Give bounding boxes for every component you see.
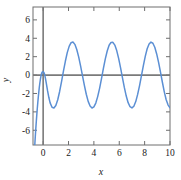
y-tick-label: -2 <box>22 89 30 99</box>
chart-plot: 0246810 -6-4-20246 x y <box>0 0 181 180</box>
y-tick-label: 4 <box>25 34 30 44</box>
y-tick-label: -6 <box>22 126 30 136</box>
y-tick-label: 0 <box>25 70 30 80</box>
y-axis-title: y <box>0 77 11 83</box>
y-tick-label: 2 <box>25 52 30 62</box>
x-tick-label: 6 <box>117 148 122 158</box>
y-tick-label: 6 <box>25 15 30 25</box>
x-tick-label: 4 <box>92 148 97 158</box>
chart-figure: 0246810 -6-4-20246 x y <box>0 0 181 180</box>
x-tick-label: 2 <box>66 148 71 158</box>
data-series-curve <box>35 42 170 145</box>
x-tick-label: 0 <box>41 148 46 158</box>
series-line <box>35 42 170 145</box>
x-tick-label: 8 <box>142 148 147 158</box>
y-tick-label: -4 <box>22 107 30 117</box>
x-axis-tick-labels: 0246810 <box>41 148 175 158</box>
x-axis-title: x <box>98 166 104 177</box>
x-tick-label: 10 <box>165 148 175 158</box>
y-axis-tick-labels: -6-4-20246 <box>22 15 30 135</box>
